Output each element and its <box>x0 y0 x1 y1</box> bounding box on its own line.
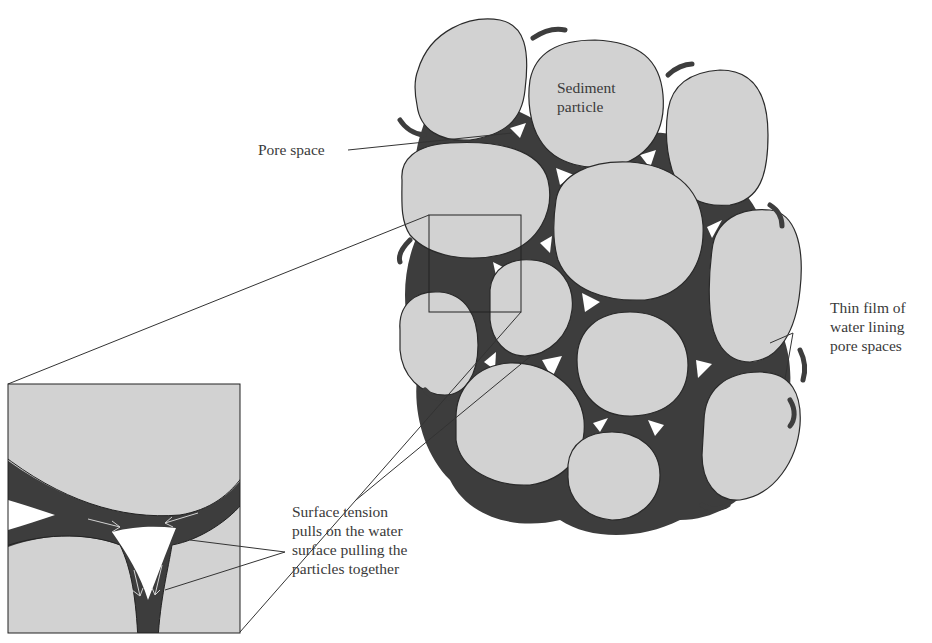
inset-magnified-view <box>0 384 245 640</box>
particle <box>400 292 478 395</box>
particle <box>568 432 660 520</box>
label-thin-film: Thin film of water lining pore spaces <box>830 298 906 355</box>
particle <box>709 210 801 362</box>
particle <box>554 162 704 300</box>
zoom-leader-top <box>8 215 429 384</box>
particle <box>415 19 527 140</box>
particle <box>402 142 550 258</box>
diagram-svg <box>0 0 932 643</box>
diagram-canvas: Sediment particle Pore space Thin film o… <box>0 0 932 643</box>
label-sediment-particle: Sediment particle <box>557 78 616 116</box>
label-surface-tension: Surface tension pulls on the water surfa… <box>292 502 407 578</box>
label-pore-space: Pore space <box>258 140 325 159</box>
particle <box>702 372 800 500</box>
particle <box>577 312 688 416</box>
